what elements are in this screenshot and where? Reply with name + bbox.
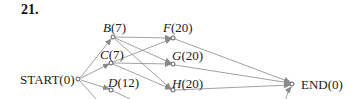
node-start	[76, 77, 80, 81]
node-label-end: END(0)	[301, 78, 343, 91]
node-name-h: H	[172, 76, 181, 91]
precedence-network-diagram: 21.	[0, 0, 359, 99]
node-value-c: (7)	[109, 47, 124, 62]
edge-offscreen-end	[286, 87, 291, 99]
edge-d-offscreen	[113, 91, 130, 99]
node-name-f: F	[163, 20, 171, 35]
node-value-h: (20)	[181, 76, 203, 91]
node-f	[171, 36, 175, 40]
node-label-h: H(20)	[172, 77, 203, 90]
node-label-start: START(0)	[20, 73, 75, 86]
node-label-c: C(7)	[100, 48, 124, 61]
node-label-f: F(20)	[163, 21, 193, 34]
node-name-g: G	[172, 48, 181, 63]
edge-start-d	[81, 80, 109, 89]
node-end	[290, 82, 294, 86]
node-value-d: (12)	[117, 75, 139, 90]
node-name-c: C	[100, 47, 109, 62]
node-value-f: (20)	[171, 20, 193, 35]
node-label-b: B(7)	[103, 21, 126, 34]
node-b	[111, 35, 115, 39]
edge-b-f	[115, 37, 171, 38]
node-value-g: (20)	[181, 48, 203, 63]
node-value-b: (7)	[111, 20, 126, 35]
node-name-d: D	[108, 75, 117, 90]
node-name-b: B	[103, 20, 111, 35]
edge-c-g	[113, 63, 171, 64]
node-label-d: D(12)	[108, 76, 139, 89]
node-label-g: G(20)	[172, 49, 203, 62]
